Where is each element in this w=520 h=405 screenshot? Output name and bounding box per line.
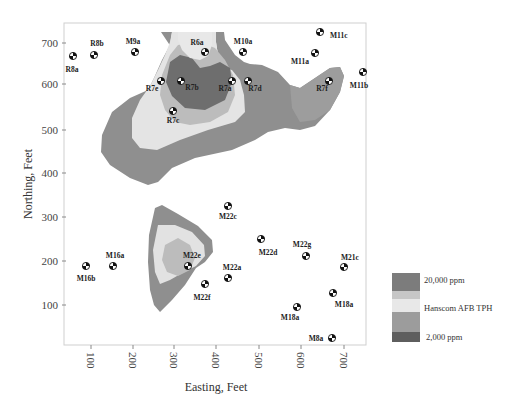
well-label-R7c: R7c (167, 116, 180, 125)
well-icon (257, 235, 264, 242)
well-icon (359, 68, 366, 75)
legend: 20,000 ppm Hanscom AFB TPH 2,000 ppm (392, 273, 492, 342)
legend-swatch-high (392, 273, 420, 291)
well-icon (311, 49, 318, 56)
legend-label-high: 20,000 ppm (424, 275, 465, 285)
well-icon (302, 252, 309, 259)
x-axis-title: Easting, Feet (185, 380, 248, 394)
y-axis: 700 600 500 400 300 200 100 Northing, Fe… (21, 37, 66, 311)
well-label-R7f: R7f (316, 84, 328, 93)
well-label-M18a-2: M18a (281, 313, 300, 322)
well-icon (177, 77, 184, 84)
well-icon (293, 303, 300, 310)
well-icon (329, 289, 336, 296)
contour-chart: 700 600 500 400 300 200 100 Northing, Fe… (0, 0, 520, 405)
y-axis-title: Northing, Feet (21, 148, 35, 219)
well-label-M10a: M10a (234, 37, 253, 46)
well-label-R6a: R6a (191, 38, 204, 47)
well-label-M22a: M22a (223, 263, 242, 272)
well-icon (239, 48, 246, 55)
legend-swatch-low (392, 332, 420, 342)
well-label-M8a: M8a (309, 334, 324, 343)
well-icon (157, 77, 164, 84)
well-icon (340, 263, 347, 270)
well-label-M9a: M9a (126, 37, 141, 46)
legend-swatch-mid (392, 312, 420, 332)
x-tick-400: 400 (210, 352, 222, 369)
well-label-R7b: R7b (185, 83, 198, 92)
well-label-M22e: M22e (183, 251, 202, 260)
x-tick-500: 500 (253, 352, 265, 369)
well-icon (69, 52, 76, 59)
well-label-R7d: R7d (248, 84, 262, 93)
legend-label-low: 2,000 ppm (426, 332, 463, 342)
well-label-M16a: M16a (106, 251, 125, 260)
x-tick-200: 200 (127, 352, 139, 369)
y-tick-500: 500 (42, 124, 59, 136)
well-icon (109, 262, 116, 269)
y-tick-700: 700 (42, 37, 59, 49)
y-tick-600: 600 (42, 78, 59, 90)
well-label-M22c: M22c (219, 212, 238, 221)
well-label-M22f: M22f (193, 293, 211, 302)
legend-label-title: Hanscom AFB TPH (424, 303, 492, 313)
well-icon (184, 262, 191, 269)
well-icon (131, 48, 138, 55)
well-label-R7e: R7e (146, 84, 159, 93)
x-tick-100: 100 (85, 352, 97, 369)
well-label-M16b: M16b (77, 274, 96, 283)
well-label-M22d: M22d (259, 248, 279, 257)
legend-swatch-light (392, 299, 420, 312)
well-icon (316, 28, 323, 35)
y-tick-100: 100 (42, 299, 59, 311)
well-icon (224, 202, 231, 209)
well-icon (201, 280, 208, 287)
y-tick-300: 300 (42, 211, 59, 223)
x-tick-700: 700 (338, 352, 350, 369)
x-tick-600: 600 (295, 352, 307, 369)
well-label-R7a: R7a (219, 84, 232, 93)
well-label-M22g: M22g (293, 240, 312, 249)
y-tick-400: 400 (42, 167, 59, 179)
well-icon (169, 107, 176, 114)
legend-swatch-mid-light (392, 291, 420, 299)
y-tick-200: 200 (42, 255, 59, 267)
well-icon (82, 262, 89, 269)
well-label-M11a: M11a (291, 57, 309, 66)
x-tick-300: 300 (168, 352, 180, 369)
x-axis: 100 200 300 400 500 600 700 Easting, Fee… (85, 345, 350, 394)
well-icon (90, 51, 97, 58)
well-label-M18a: M18a (335, 300, 354, 309)
well-icon (224, 274, 231, 281)
well-icon (201, 48, 208, 55)
well-label-M11b: M11b (350, 81, 368, 90)
well-label-R8b: R8b (90, 39, 103, 48)
well-label-R8a: R8a (66, 65, 79, 74)
well-icon (328, 334, 335, 341)
well-label-M21c: M21c (341, 253, 360, 262)
well-label-M11c: M11c (330, 31, 348, 40)
